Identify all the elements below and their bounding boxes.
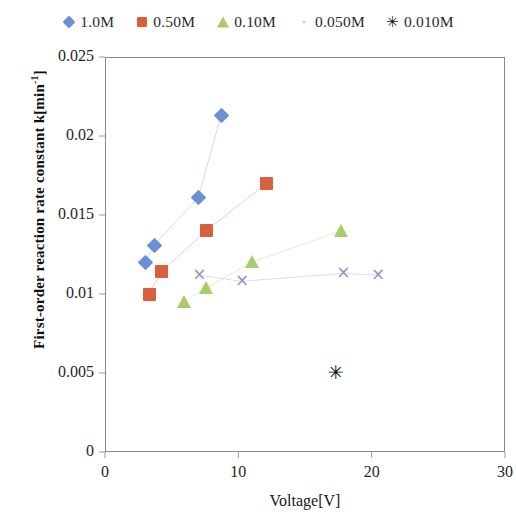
diamond-marker-icon <box>62 16 75 29</box>
y-axis-title: First-order reaction rate constant k[min… <box>29 20 48 400</box>
legend-item-0-010m[interactable]: ✳ 0.010M <box>386 13 454 31</box>
square-marker-icon <box>135 16 148 29</box>
x-marker-icon: × <box>336 264 350 281</box>
x-marker-icon: × <box>192 266 206 283</box>
legend-label: 0.10M <box>234 13 276 31</box>
square-marker-icon <box>200 224 213 237</box>
x-tick-label: 20 <box>342 463 402 481</box>
square-marker-icon <box>143 288 156 301</box>
asterisk-marker-icon: ✳ <box>328 363 344 382</box>
triangle-marker-icon <box>177 295 191 308</box>
triangle-marker-icon <box>216 16 229 29</box>
legend-label: 0.010M <box>404 13 454 31</box>
triangle-marker-icon <box>245 255 259 268</box>
chart-legend: 1.0M 0.50M 0.10M 0.050M ✳ 0.010M <box>0 9 516 35</box>
square-marker-icon <box>260 177 273 190</box>
plot-area <box>105 57 505 452</box>
x-tick-label: 10 <box>208 463 268 481</box>
legend-label: 0.050M <box>315 13 365 31</box>
legend-item-0-050m[interactable]: 0.050M <box>297 13 365 31</box>
x-tick-label: 30 <box>475 463 516 481</box>
legend-item-0-50m[interactable]: 0.50M <box>135 13 195 31</box>
legend-label: 0.50M <box>153 13 195 31</box>
chart-figure: 1.0M 0.50M 0.10M 0.050M ✳ 0.010M <box>0 0 516 527</box>
x-marker-icon: × <box>235 272 249 289</box>
x-tick-label: 0 <box>75 463 135 481</box>
square-marker-icon <box>155 265 168 278</box>
triangle-marker-icon <box>334 224 348 237</box>
dot-marker-icon <box>297 16 310 29</box>
legend-label: 1.0M <box>80 13 114 31</box>
asterisk-marker-icon: ✳ <box>386 16 399 29</box>
x-marker-icon: × <box>371 266 385 283</box>
x-axis-title: Voltage[V] <box>105 492 505 510</box>
y-tick-label: 0 <box>20 442 94 460</box>
legend-item-0-10m[interactable]: 0.10M <box>216 13 276 31</box>
legend-item-1-0m[interactable]: 1.0M <box>62 13 114 31</box>
